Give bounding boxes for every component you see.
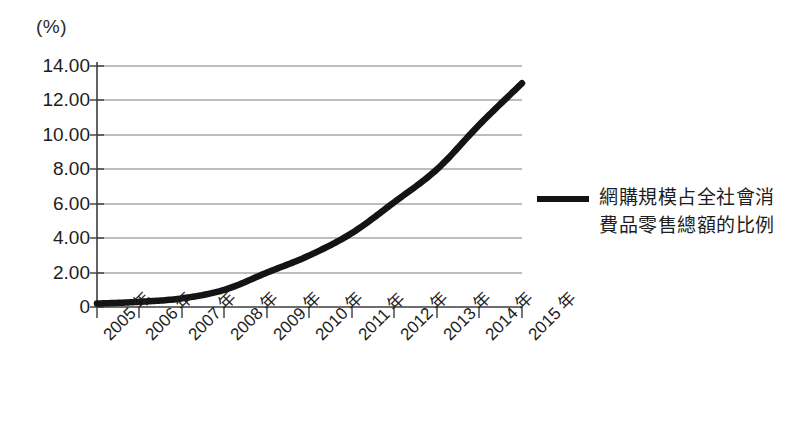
data-series-line (97, 83, 522, 303)
chart-figure: (%) 14.00 12.00 10.00 8.00 6.00 4.00 2.0… (0, 0, 797, 434)
legend-line-swatch (537, 196, 589, 202)
legend-label-line1: 網購規模占全社會消 (599, 184, 775, 212)
legend-label-line2: 費品零售總額的比例 (599, 212, 775, 240)
grid-lines (97, 66, 522, 273)
legend-label: 網購規模占全社會消 費品零售總額的比例 (599, 184, 775, 240)
chart-legend: 網購規模占全社會消 費品零售總額的比例 (537, 184, 775, 240)
